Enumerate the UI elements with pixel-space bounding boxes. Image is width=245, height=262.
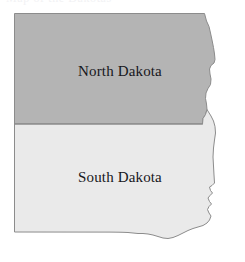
map-svg: North Dakota South Dakota xyxy=(0,0,245,262)
state-label-south-dakota: South Dakota xyxy=(78,169,162,185)
dakotas-map-figure: North Dakota South Dakota Map of the Dak… xyxy=(0,0,245,262)
state-label-north-dakota: North Dakota xyxy=(78,63,162,79)
